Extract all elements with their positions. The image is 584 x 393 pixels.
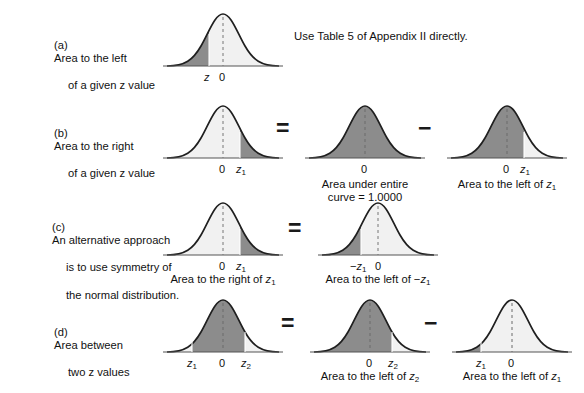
figure-row-c: (c) An alternative approach is to use sy… — [0, 195, 584, 290]
curve-c-1-tick-0: 0 — [219, 260, 225, 272]
row-b-label-line2: of a given z value — [54, 167, 155, 179]
curve-d-2: 0 z2 Area to the left of z2 — [310, 294, 430, 372]
curve-d-1-tick-2: z2 — [241, 357, 251, 369]
row-d-label-line1: Area between — [54, 339, 123, 351]
figure-row-d: (d) Area between two z values z1 0 z2 — [0, 290, 584, 393]
curve-a-1-tick-1: 0 — [219, 71, 225, 83]
curve-c-1: 0 z1 Area to the right of z1 — [163, 197, 283, 275]
curve-c-2-graphic — [318, 197, 438, 259]
row-b-label-line1: Area to the right — [54, 140, 134, 152]
row-c-label-line2: is to use symmetry of — [52, 261, 172, 273]
curve-a-1-graphic — [163, 8, 283, 70]
curve-d-3-tick-0: z1 — [476, 357, 486, 369]
curve-d-2-graphic — [310, 294, 430, 356]
curve-a-1-tick-0: z — [204, 71, 210, 83]
curve-c-1-tick-1: z1 — [236, 260, 246, 272]
row-d-label-line2: two z values — [54, 366, 130, 378]
curve-d-3: z1 0 Area to the left of z1 — [452, 294, 572, 372]
row-a-label-line1: Area to the left — [54, 52, 127, 64]
curve-b-3-graphic — [447, 100, 567, 162]
curve-d-2-tick-1: z2 — [388, 357, 398, 369]
normal-distribution-figure: (a) Area to the left of a given z value … — [0, 0, 584, 393]
curve-c-2-tick-0: −z1 — [350, 260, 366, 272]
curve-c-1-graphic — [163, 197, 283, 259]
curve-b-2-tick-0: 0 — [361, 163, 367, 175]
curve-c-1-caption: Area to the right of z1 — [147, 273, 299, 287]
curve-b-1-graphic — [163, 100, 283, 162]
operator-equals-c: = — [288, 217, 301, 240]
curve-d-3-caption: Area to the left of z1 — [438, 370, 584, 384]
curve-d-3-graphic — [452, 294, 572, 356]
operator-equals-b: = — [276, 117, 289, 140]
row-d-tag: (d) — [54, 326, 68, 338]
figure-row-b: (b) Area to the right of a given z value… — [0, 95, 584, 195]
curve-d-1-graphic — [163, 294, 283, 356]
curve-b-2-graphic — [305, 100, 425, 162]
curve-d-2-caption: Area to the left of z2 — [296, 370, 444, 384]
curve-b-1-tick-1: z1 — [236, 163, 246, 175]
operator-minus-d: − — [424, 312, 437, 335]
figure-row-a: (a) Area to the left of a given z value … — [0, 0, 584, 95]
curve-d-1-tick-0: z1 — [187, 357, 197, 369]
row-b-tag: (b) — [54, 127, 68, 139]
curve-a-1: z 0 — [163, 8, 283, 86]
row-c-tag: (c) — [52, 221, 65, 233]
curve-b-2: 0 Area under entire curve = 1.0000 — [305, 100, 425, 178]
operator-minus-b: − — [418, 117, 431, 140]
curve-c-2-tick-1: 0 — [375, 260, 381, 272]
curve-d-1-tick-1: 0 — [219, 357, 225, 369]
curve-b-1: 0 z1 — [163, 100, 283, 178]
curve-d-1: z1 0 z2 — [163, 294, 283, 372]
curve-c-2: −z1 0 Area to the left of −z1 — [318, 197, 438, 275]
curve-d-3-tick-1: 0 — [508, 357, 514, 369]
curve-c-2-caption: Area to the left of −z1 — [302, 273, 454, 287]
curve-b-3-tick-1: z1 — [520, 163, 530, 175]
curve-b-1-tick-0: 0 — [219, 163, 225, 175]
row-a-label-line2: of a given z value — [54, 79, 155, 91]
operator-equals-d: = — [281, 312, 294, 335]
row-c-label-line1: An alternative approach — [52, 234, 170, 246]
curve-b-3-caption: Area to the left of z1 — [433, 178, 581, 192]
appendix-note: Use Table 5 of Appendix II directly. — [294, 30, 468, 42]
curve-d-2-tick-0: 0 — [366, 357, 372, 369]
curve-b-3: 0 z1 Area to the left of z1 — [447, 100, 567, 178]
row-a-tag: (a) — [54, 39, 68, 51]
curve-b-3-tick-0: 0 — [503, 163, 509, 175]
